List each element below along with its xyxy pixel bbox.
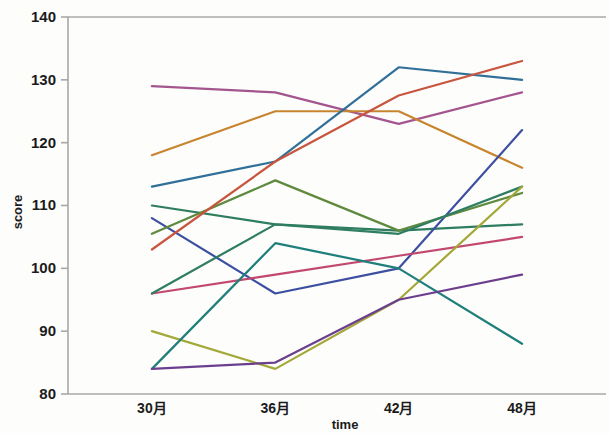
series-line-subject-12 (152, 275, 522, 369)
x-axis-title: time (332, 417, 359, 432)
x-tick-label: 30月 (137, 400, 167, 416)
series-lines (152, 61, 522, 369)
y-tick-label: 120 (31, 134, 56, 151)
series-line-subject-05 (152, 130, 522, 293)
series-line-subject-03 (152, 67, 522, 186)
line-chart: 8090100110120130140 30月36月42月48月 score t… (0, 0, 610, 433)
x-tick-label: 42月 (384, 400, 414, 416)
series-line-subject-02 (152, 111, 522, 168)
y-tick-label: 80 (39, 385, 56, 402)
y-tick-label: 90 (39, 322, 56, 339)
y-axis-ticks: 8090100110120130140 (31, 8, 68, 402)
x-tick-label: 48月 (507, 400, 537, 416)
y-tick-label: 140 (31, 8, 56, 25)
x-axis-ticks: 30月36月42月48月 (137, 400, 537, 416)
chart-canvas: 8090100110120130140 30月36月42月48月 score t… (0, 0, 610, 433)
x-tick-label: 36月 (261, 400, 291, 416)
y-tick-label: 100 (31, 259, 56, 276)
y-tick-label: 110 (32, 196, 56, 213)
series-line-subject-01 (152, 86, 522, 124)
y-tick-label: 130 (31, 71, 56, 88)
y-axis-title: score (10, 195, 25, 230)
series-line-subject-09 (152, 187, 522, 294)
